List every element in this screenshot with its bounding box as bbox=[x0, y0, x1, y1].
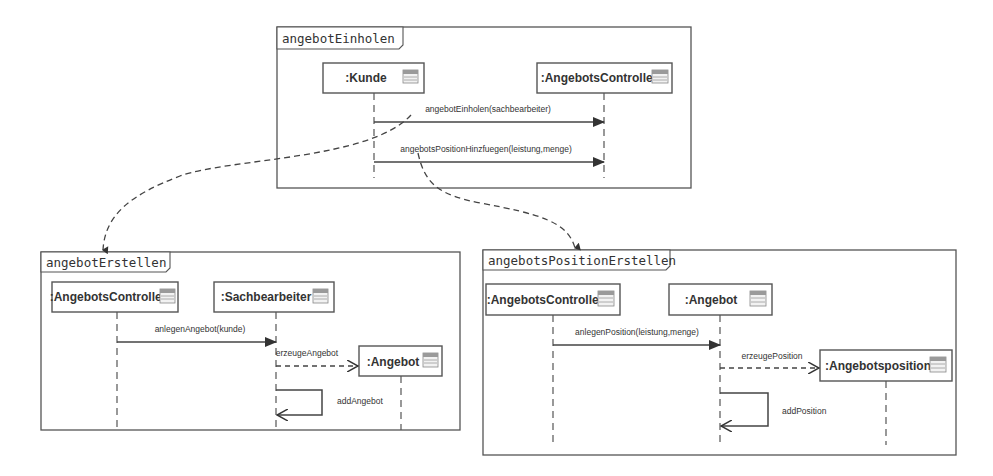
class-icon bbox=[423, 353, 438, 367]
self-message-arrow[interactable] bbox=[720, 393, 768, 426]
lifeline-label: :Angebot bbox=[367, 355, 420, 369]
frame-label: angebotErstellen bbox=[46, 255, 166, 270]
frame-angebots-position-erstellen: angebotsPositionErstellen :AngebotsContr… bbox=[483, 250, 956, 455]
lifeline-label: :AngebotsController bbox=[487, 293, 604, 307]
message-add-position[interactable]: addPosition bbox=[720, 393, 827, 426]
message-label: addAngebot bbox=[337, 396, 383, 406]
lifeline-angebots-controller[interactable]: :AngebotsController bbox=[50, 282, 178, 428]
lifeline-angebotsposition[interactable]: :Angebotsposition bbox=[820, 350, 952, 445]
message-angebot-einholen[interactable]: angebotEinholen(sachbearbeiter) bbox=[374, 104, 604, 122]
lifeline-label: :AngebotsController bbox=[50, 290, 167, 304]
message-angebots-position-hinzfuegen[interactable]: angebotsPositionHinzfuegen(leistung,meng… bbox=[374, 144, 604, 162]
class-icon bbox=[160, 289, 175, 303]
lifeline-label: :Angebotsposition bbox=[825, 359, 931, 373]
message-erzeuge-position[interactable]: erzeugePosition bbox=[720, 351, 819, 368]
lifeline-label: :Sachbearbeiter bbox=[221, 290, 312, 304]
lifeline-angebot[interactable]: :Angebot bbox=[359, 346, 442, 430]
lifeline-kunde[interactable]: :Kunde bbox=[323, 63, 424, 178]
message-label: anlegenPosition(leistung,menge) bbox=[575, 327, 699, 337]
message-label: angebotsPositionHinzfuegen(leistung,meng… bbox=[400, 144, 572, 154]
message-label: angebotEinholen(sachbearbeiter) bbox=[425, 104, 551, 114]
message-label: anlegenAngebot(kunde) bbox=[155, 324, 246, 334]
frame-angebot-erstellen: angebotErstellen :AngebotsController :Sa… bbox=[41, 252, 460, 430]
self-message-arrow[interactable] bbox=[276, 390, 322, 415]
connector-to-angebots-position-erstellen[interactable] bbox=[418, 153, 575, 248]
frame-label: angebotsPositionErstellen bbox=[488, 253, 676, 268]
message-label: erzeugePosition bbox=[742, 351, 803, 361]
lifeline-angebot[interactable]: :Angebot bbox=[669, 284, 772, 445]
message-label: erzeugeAngebot bbox=[276, 348, 339, 358]
frame-label: angebotEinholen bbox=[282, 31, 395, 46]
message-add-angebot[interactable]: addAngebot bbox=[276, 390, 383, 415]
lifeline-label: :AngebotsController bbox=[541, 71, 658, 85]
class-icon bbox=[598, 291, 614, 306]
lifeline-label: :Kunde bbox=[345, 71, 387, 85]
class-icon bbox=[750, 291, 766, 306]
message-label: addPosition bbox=[782, 406, 827, 416]
message-anlegen-position[interactable]: anlegenPosition(leistung,menge) bbox=[553, 327, 720, 345]
lifeline-angebots-controller[interactable]: :AngebotsController bbox=[486, 284, 620, 445]
class-icon bbox=[313, 289, 328, 303]
frame-angebot-einholen: angebotEinholen :Kunde :AngebotsControll… bbox=[277, 27, 691, 188]
connector-to-angebot-erstellen[interactable] bbox=[103, 115, 411, 250]
message-anlegen-angebot[interactable]: anlegenAngebot(kunde) bbox=[117, 324, 276, 342]
class-icon bbox=[652, 70, 668, 83]
message-erzeuge-angebot[interactable]: erzeugeAngebot bbox=[276, 348, 358, 366]
class-icon bbox=[403, 70, 418, 83]
lifeline-angebots-controller[interactable]: :AngebotsController bbox=[537, 63, 672, 178]
frame-border bbox=[41, 252, 460, 430]
class-icon bbox=[930, 357, 946, 372]
lifeline-label: :Angebot bbox=[685, 293, 738, 307]
